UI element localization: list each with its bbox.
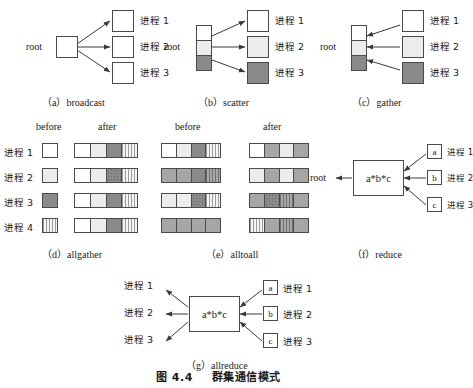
gather-root-cell-1 [352, 26, 366, 41]
allgather-column-after: after [98, 122, 116, 132]
alltoall-column-before: before [175, 122, 201, 132]
allgather-after-strip-3 [74, 193, 138, 208]
figure-caption: 图 4.4 群集通信模式 [156, 372, 281, 383]
alltoall-before-strip-3 [161, 193, 221, 208]
cell [280, 144, 295, 157]
reduce-op-box: a*b*c [353, 160, 404, 196]
reduce-input-box-c: c [427, 197, 442, 212]
reduce-input-label-2: 进程 2 [447, 174, 473, 183]
cell [265, 194, 280, 207]
cell [192, 194, 207, 207]
scatter-target-box-3 [247, 62, 269, 84]
cell [177, 219, 192, 232]
alltoall-after-strip-4 [249, 218, 309, 233]
scatter-root-cell-2 [197, 41, 211, 56]
cell [294, 219, 308, 232]
scatter-root-cell-1 [197, 26, 211, 41]
cell [206, 194, 220, 207]
alltoall-column-after: after [263, 122, 281, 132]
cell [162, 144, 177, 157]
gather-root-stack [351, 25, 367, 71]
cell [294, 144, 308, 157]
cell [265, 219, 280, 232]
allreduce-output-label-3: 进程 3 [124, 335, 153, 345]
allreduce-input-label-3: 进程 3 [283, 337, 312, 347]
broadcast-target-box-2 [112, 36, 134, 58]
alltoall-after-strip-1 [249, 143, 309, 158]
allreduce-input-label-1: 进程 1 [283, 284, 312, 294]
cell [206, 144, 220, 157]
allgather-column-before: before [36, 122, 62, 132]
cell [107, 194, 123, 207]
cell [162, 169, 177, 182]
allreduce-op-box: a*b*c [189, 296, 240, 332]
cell [192, 219, 207, 232]
broadcast-target-label-3: 进程 3 [140, 68, 169, 78]
cell [75, 194, 91, 207]
figure-caption-title: 群集通信模式 [212, 371, 281, 384]
allreduce-input-box-c: c [263, 333, 278, 348]
allgather-before-cell-2 [42, 168, 58, 183]
scatter-target-box-1 [247, 10, 269, 32]
allgather-after-strip-1 [74, 143, 138, 158]
allgather-after-strip-4 [74, 218, 138, 233]
cell [91, 169, 107, 182]
allreduce-input-box-a: a [263, 280, 278, 295]
reduce-input-box-b: b [427, 170, 442, 185]
scatter-root-stack [196, 25, 212, 71]
allgather-row-label-4: 进程 4 [4, 223, 33, 233]
cell [250, 169, 265, 182]
gather-source-box-3 [402, 62, 424, 84]
cell [177, 144, 192, 157]
scatter-target-label-1: 进程 1 [275, 16, 304, 26]
scatter-root-label: root [164, 42, 180, 52]
cell [122, 194, 137, 207]
cell [75, 169, 91, 182]
cell [91, 144, 107, 157]
allreduce-input-label-2: 进程 2 [283, 310, 312, 320]
cell [107, 169, 123, 182]
reduce-caption: （f）reduce [352, 250, 402, 260]
cell [162, 194, 177, 207]
alltoall-before-strip-1 [161, 143, 221, 158]
cell [265, 144, 280, 157]
cell [107, 144, 123, 157]
cell [192, 169, 207, 182]
cell [75, 144, 91, 157]
allgather-before-cell-4 [42, 218, 58, 233]
cell [265, 169, 280, 182]
broadcast-target-box-3 [112, 62, 134, 84]
gather-root-label: root [320, 42, 336, 52]
allreduce-output-label-2: 进程 2 [124, 308, 153, 318]
cell [75, 219, 91, 232]
alltoall-after-strip-3 [249, 193, 309, 208]
allreduce-caption: （g）allreduce [186, 361, 248, 371]
allgather-row-label-1: 进程 1 [4, 148, 33, 158]
gather-source-label-3: 进程 3 [430, 68, 459, 78]
cell [294, 194, 308, 207]
allgather-caption: （d）allgather [42, 250, 102, 260]
cell [177, 194, 192, 207]
cell [294, 169, 308, 182]
gather-root-cell-2 [352, 41, 366, 56]
allreduce-output-label-1: 进程 1 [124, 281, 153, 291]
alltoall-after-strip-2 [249, 168, 309, 183]
allgather-row-label-3: 进程 3 [4, 198, 33, 208]
gather-caption: （c）gather [352, 98, 401, 108]
cell [122, 219, 137, 232]
allgather-after-strip-2 [74, 168, 138, 183]
reduce-input-label-3: 进程 3 [447, 201, 473, 210]
allreduce-input-box-b: b [263, 306, 278, 321]
cell [280, 194, 295, 207]
broadcast-root-box [56, 36, 78, 58]
cell [206, 219, 220, 232]
cell [192, 144, 207, 157]
alltoall-caption: （e）alltoall [206, 250, 258, 260]
reduce-root-label: root [310, 173, 326, 183]
broadcast-caption: （a）broadcast [42, 98, 105, 108]
broadcast-target-label-1: 进程 1 [140, 16, 169, 26]
cell [177, 169, 192, 182]
cell [280, 169, 295, 182]
cell [206, 169, 220, 182]
